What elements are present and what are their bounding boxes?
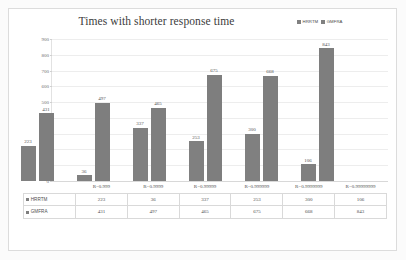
table-cell: 337 (179, 193, 231, 206)
table-cell: 497 (127, 206, 179, 219)
table-cell: 465 (179, 206, 231, 219)
plot-area: 0100200300400500600700800900 22343136497… (9, 39, 398, 181)
bar-slot: 843 (319, 39, 334, 181)
table-cell: 36 (127, 193, 179, 206)
table-cell: 668 (283, 206, 335, 219)
bar-value-label: 668 (266, 69, 274, 74)
legend-item-series-1[interactable]: HRRTM (297, 19, 318, 24)
table-corner-cell (24, 181, 76, 193)
table-cell: 300 (283, 193, 335, 206)
bar-slot: 300 (245, 39, 260, 181)
bar-slot: 106 (301, 39, 316, 181)
bar-value-label: 337 (136, 121, 144, 126)
bar-value-label: 675 (210, 68, 218, 73)
legend-swatch-icon (26, 211, 29, 214)
bar-group: 223431 (9, 39, 65, 181)
bar[interactable] (301, 164, 316, 181)
bar-slot: 675 (207, 39, 222, 181)
bar[interactable] (207, 75, 222, 182)
bar-slot: 497 (95, 39, 110, 181)
table-cell: 431 (76, 206, 128, 219)
bar[interactable] (151, 108, 166, 181)
table-column-header: R=0.9999999 (283, 181, 335, 193)
table-row-header-label: GMFRA (31, 210, 48, 215)
bar[interactable] (133, 128, 148, 181)
bar-slot: 36 (77, 39, 92, 181)
bar-group: 253675 (177, 39, 233, 181)
table-row-header-label: HRRTM (31, 197, 48, 202)
bar-slot: 668 (263, 39, 278, 181)
table-column-header: R=0.99999999 (335, 181, 387, 193)
bar-value-label: 223 (24, 139, 32, 144)
table-cell: 253 (231, 193, 283, 206)
bar[interactable] (189, 141, 204, 181)
bar-value-label: 106 (304, 158, 312, 163)
chart-data-table: R=0.999R=0.9999R=0.99999R=0.999999R=0.99… (23, 181, 387, 219)
legend-label: HRRTM (303, 19, 319, 24)
bar-value-label: 465 (154, 101, 162, 106)
table-row-categories: R=0.999R=0.9999R=0.99999R=0.999999R=0.99… (24, 181, 387, 193)
bar-value-label: 300 (248, 127, 256, 132)
table-column-header: R=0.999 (76, 181, 128, 193)
bar-slot: 337 (133, 39, 148, 181)
table-cell: 223 (76, 193, 128, 206)
bar-group: 106843 (289, 39, 345, 181)
bar[interactable] (95, 103, 110, 181)
table-column-header: R=0.999999 (231, 181, 283, 193)
bar-group: 337465 (121, 39, 177, 181)
chart-title: Times with shorter response time (49, 15, 264, 27)
bar-slot: 465 (151, 39, 166, 181)
legend-swatch-icon (321, 20, 325, 24)
bar[interactable] (245, 134, 260, 181)
chart-screenshot: Times with shorter response time HRRTM G… (0, 0, 406, 260)
legend-swatch-icon (297, 20, 301, 24)
bar-value-label: 843 (322, 42, 330, 47)
bar[interactable] (319, 48, 334, 181)
bar[interactable] (21, 146, 36, 181)
table-cell: 843 (335, 206, 387, 219)
chart-header: Times with shorter response time HRRTM G… (9, 15, 398, 37)
legend-item-series-2[interactable]: GMFRA (321, 19, 342, 24)
bar-group: 36497 (65, 39, 121, 181)
table-row: HRRTM22336337253300106 (24, 193, 387, 206)
bar[interactable] (263, 76, 278, 181)
bar-value-label: 36 (82, 169, 87, 174)
table-body: R=0.999R=0.9999R=0.99999R=0.999999R=0.99… (24, 181, 387, 218)
table-column-header: R=0.99999 (179, 181, 231, 193)
table-column-header: R=0.9999 (127, 181, 179, 193)
chart-frame: Times with shorter response time HRRTM G… (8, 8, 397, 251)
table-cell: 675 (231, 206, 283, 219)
table-cell: 106 (335, 193, 387, 206)
legend-label: GMFRA (327, 19, 343, 24)
bar-value-label: 253 (192, 135, 200, 140)
bar-slot: 431 (39, 39, 54, 181)
table-row: GMFRA431497465675668843 (24, 206, 387, 219)
bar-group: 300668 (233, 39, 289, 181)
table-row-header: GMFRA (24, 206, 76, 219)
bar-slot: 223 (21, 39, 36, 181)
table-row-header: HRRTM (24, 193, 76, 206)
bar[interactable] (39, 113, 54, 181)
bar-slot: 253 (189, 39, 204, 181)
bar-groups: 22343136497337465253675300668106843 (9, 39, 345, 181)
legend-swatch-icon (26, 198, 29, 201)
bar-value-label: 431 (42, 107, 50, 112)
chart-legend: HRRTM GMFRA (297, 19, 342, 24)
bar-value-label: 497 (98, 96, 106, 101)
